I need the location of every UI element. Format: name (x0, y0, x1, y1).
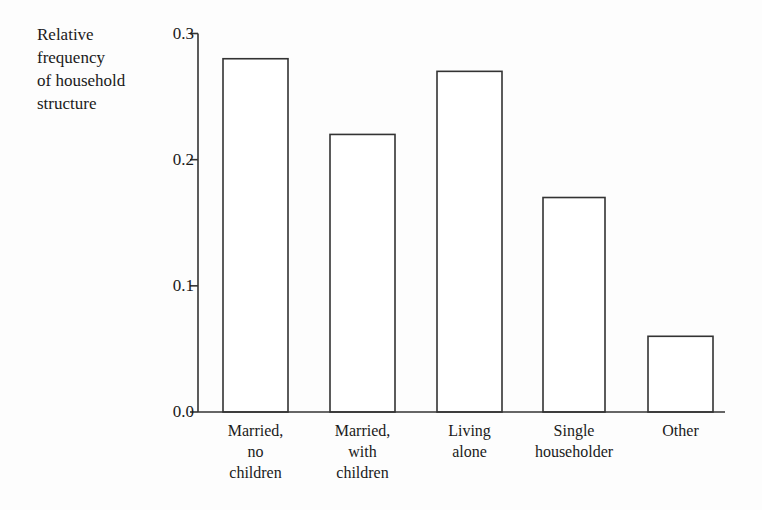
y-tick-label: 0.1 (154, 277, 194, 294)
bar (330, 134, 395, 412)
bar (648, 336, 713, 412)
y-tick-label-wrap: 0.1 (152, 277, 194, 294)
bar (223, 59, 288, 412)
y-tick-label: 0.3 (154, 25, 194, 42)
bar (437, 71, 502, 412)
y-tick-label: 0.0 (154, 403, 194, 420)
bar-chart-figure: Relative frequency of household structur… (0, 0, 762, 510)
y-tick-label-wrap: 0.2 (152, 151, 194, 168)
y-tick-label-wrap: 0.3 (152, 25, 194, 42)
y-tick-label-wrap: 0.0 (152, 403, 194, 420)
x-category-label: Other (606, 420, 756, 441)
bar (543, 198, 605, 412)
y-tick-label: 0.2 (154, 151, 194, 168)
bars-group (223, 59, 713, 412)
